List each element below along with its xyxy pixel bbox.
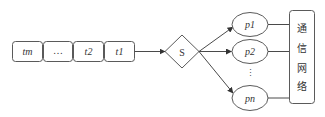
communication-network: 通 信 网 络 — [290, 11, 315, 104]
scheduler-to-pn-arrow — [199, 52, 233, 94]
queue-item-label: t1 — [116, 46, 124, 57]
queue-item-t1: t1 — [105, 42, 135, 62]
network-char: 通 — [297, 23, 307, 34]
task-queue: tm … t2 t1 — [13, 42, 135, 62]
task-scheduling-diagram: tm … t2 t1 S p1 p2 ⋮ pn — [0, 0, 325, 117]
network-char: 络 — [297, 80, 307, 92]
queue-item-ellipsis: … — [44, 42, 73, 62]
network-char: 信 — [297, 43, 307, 54]
queue-item-label: t2 — [85, 46, 93, 57]
queue-item-t2: t2 — [74, 42, 104, 62]
queue-item-label: … — [53, 45, 63, 56]
processor-label: pn — [244, 93, 255, 104]
network-char: 网 — [297, 63, 307, 74]
scheduler-label: S — [179, 47, 185, 58]
processor-label: p1 — [244, 19, 255, 30]
scheduler-node: S — [165, 35, 199, 68]
scheduler-to-p1-arrow — [199, 27, 233, 52]
processor-p2: p2 — [232, 40, 268, 64]
processor-label: p2 — [244, 46, 255, 57]
queue-item-tm: tm — [13, 42, 43, 62]
processor-ellipsis: ⋮ — [246, 68, 255, 78]
processor-pn: pn — [232, 86, 268, 111]
processor-p1: p1 — [232, 13, 268, 37]
queue-item-label: tm — [23, 46, 33, 57]
